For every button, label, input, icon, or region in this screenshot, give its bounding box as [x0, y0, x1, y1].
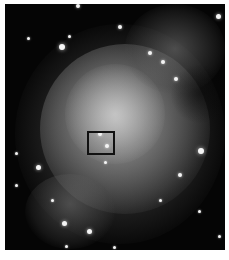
star — [68, 35, 71, 38]
star — [15, 184, 18, 187]
star — [198, 148, 204, 154]
star — [65, 245, 68, 248]
star — [27, 37, 30, 40]
nebula-photo — [5, 4, 225, 250]
star — [159, 199, 162, 202]
highlight-box — [87, 131, 115, 155]
star — [174, 77, 178, 81]
star — [178, 173, 182, 177]
star — [87, 229, 92, 234]
star — [118, 25, 122, 29]
star — [218, 235, 221, 238]
star — [104, 161, 107, 164]
star — [148, 51, 152, 55]
star — [216, 14, 221, 19]
star — [59, 44, 65, 50]
star — [76, 4, 80, 8]
star — [51, 199, 54, 202]
star — [62, 221, 67, 226]
star — [36, 165, 41, 170]
star — [15, 152, 18, 155]
nebula-filament-bottom-left — [25, 174, 115, 249]
star — [161, 60, 165, 64]
dark-lane-right — [170, 64, 225, 124]
star — [198, 210, 201, 213]
star — [113, 246, 116, 249]
